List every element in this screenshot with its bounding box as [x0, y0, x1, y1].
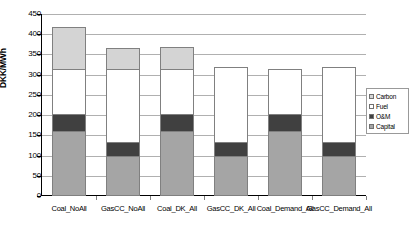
bar-segment-fuel[interactable] [268, 69, 302, 113]
bar-segment-carbon[interactable] [106, 48, 140, 68]
bar-segment-om[interactable] [322, 142, 356, 155]
y-axis-tick-label: 250 [7, 91, 41, 99]
y-axis-tick-label: 350 [7, 50, 41, 58]
x-axis-tick-mark [366, 196, 367, 200]
bar-segment-capital[interactable] [214, 156, 248, 196]
bar-segment-carbon[interactable] [160, 47, 194, 69]
y-axis-tick-label: 300 [7, 71, 41, 79]
bar-segment-fuel[interactable] [160, 69, 194, 113]
x-axis-tick-mark [258, 196, 259, 200]
x-axis-tick-mark [204, 196, 205, 200]
bar-segment-om[interactable] [160, 114, 194, 131]
y-axis-tick-label: 0 [7, 192, 41, 200]
legend-label: Capital [376, 123, 395, 130]
chart-container: DKK/MWh 050100150200250300350400450 Coal… [0, 0, 411, 232]
y-axis-tick-mark [37, 196, 41, 197]
bar-segment-om[interactable] [268, 114, 302, 131]
bar-segment-fuel[interactable] [106, 69, 140, 143]
legend-item[interactable]: Capital [369, 121, 407, 131]
bar-segment-capital[interactable] [52, 131, 86, 196]
bar-group[interactable] [322, 67, 356, 196]
x-axis-tick-mark [150, 196, 151, 200]
legend-swatch-icon [369, 124, 374, 129]
legend-label: Carbon [376, 93, 396, 100]
bar-group[interactable] [268, 69, 302, 196]
bar-segment-fuel[interactable] [214, 67, 248, 142]
bar-segment-capital[interactable] [268, 131, 302, 196]
legend-swatch-icon [369, 104, 374, 109]
bar-segment-capital[interactable] [160, 131, 194, 196]
legend-item[interactable]: Fuel [369, 101, 407, 111]
bar-segment-capital[interactable] [106, 156, 140, 196]
bars-layer [42, 14, 366, 196]
bar-segment-fuel[interactable] [322, 67, 356, 142]
bar-group[interactable] [52, 27, 86, 196]
legend-item[interactable]: Carbon [369, 91, 407, 101]
y-axis-tick-label: 450 [7, 10, 41, 18]
bar-segment-om[interactable] [106, 142, 140, 155]
bar-segment-capital[interactable] [322, 156, 356, 196]
bar-group[interactable] [160, 47, 194, 196]
bar-segment-carbon[interactable] [52, 27, 86, 69]
y-axis-tick-label: 200 [7, 111, 41, 119]
legend-swatch-icon [369, 114, 374, 119]
legend-label: Fuel [376, 103, 388, 110]
legend-swatch-icon [369, 94, 374, 99]
x-axis-tick-mark [312, 196, 313, 200]
y-axis-tick-label: 150 [7, 131, 41, 139]
y-axis-tick-label: 400 [7, 30, 41, 38]
chart-legend: CarbonFuelO&MCapital [366, 88, 409, 134]
y-axis-tick-label: 50 [7, 172, 41, 180]
bar-group[interactable] [106, 48, 140, 196]
x-axis-tick-label: GasCC_Demand_All [305, 204, 373, 213]
y-axis-tick-label: 100 [7, 152, 41, 160]
bar-segment-fuel[interactable] [52, 69, 86, 113]
bar-segment-om[interactable] [214, 142, 248, 155]
x-axis-tick-mark [96, 196, 97, 200]
legend-label: O&M [376, 113, 390, 120]
bar-group[interactable] [214, 67, 248, 196]
legend-item[interactable]: O&M [369, 111, 407, 121]
bar-segment-om[interactable] [52, 114, 86, 131]
